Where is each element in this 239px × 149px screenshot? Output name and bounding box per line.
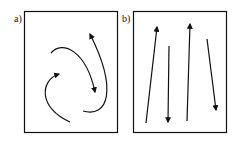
curved-arrow-icon	[51, 48, 95, 92]
panel-a-frame	[25, 12, 118, 133]
curved-arrow-icon	[83, 34, 107, 112]
arrow-down-icon	[168, 46, 169, 122]
arrow-up-icon	[187, 24, 190, 121]
arrow-up-icon	[146, 27, 157, 123]
panel-a	[25, 12, 118, 133]
diagram-canvas	[0, 0, 239, 149]
panel-b	[134, 12, 227, 133]
curved-arrow-icon	[45, 74, 70, 122]
arrow-down-icon	[207, 39, 216, 110]
